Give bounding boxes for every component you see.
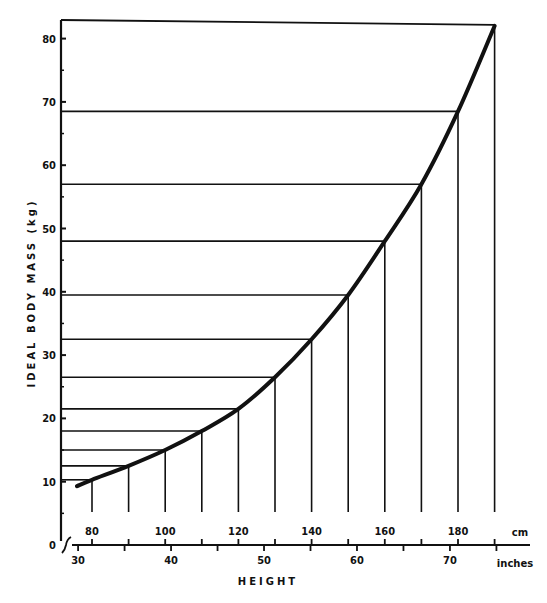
x-cm-tick-label: 120 bbox=[228, 525, 249, 538]
x-inch-tick-label: 50 bbox=[257, 554, 271, 567]
y-tick-label: 10 bbox=[42, 476, 56, 489]
x-inch-tick-label: 30 bbox=[71, 554, 85, 567]
y-axis: 01020304050607080 bbox=[42, 33, 66, 552]
ideal-body-mass-chart: 01020304050607080 8010012014016018030405… bbox=[0, 0, 547, 603]
y-tick-label: 40 bbox=[42, 286, 56, 299]
x-inch-tick-label: 70 bbox=[443, 554, 457, 567]
x-cm-tick-label: 100 bbox=[155, 525, 176, 538]
axis-break-icon bbox=[62, 537, 71, 553]
x-cm-tick-label: 180 bbox=[448, 525, 469, 538]
y-tick-label: 60 bbox=[42, 159, 56, 172]
y-tick-label: 70 bbox=[42, 96, 56, 109]
x-inch-tick-label: 40 bbox=[164, 554, 178, 567]
y-tick-label: 30 bbox=[42, 349, 56, 362]
x-axis: 801001201401601803040506070 bbox=[62, 525, 530, 567]
y-tick-label: 50 bbox=[42, 223, 56, 236]
y-tick-label: 0 bbox=[49, 539, 56, 552]
x-cm-tick-label: 160 bbox=[374, 525, 395, 538]
inches-unit-label: inches bbox=[497, 558, 533, 569]
x-inch-tick-label: 60 bbox=[350, 554, 364, 567]
cm-unit-label: cm bbox=[512, 527, 528, 538]
plot-frame bbox=[61, 20, 495, 541]
ideal-body-mass-curve bbox=[77, 26, 495, 486]
y-axis-title: IDEAL BODY MASS (kg) bbox=[26, 199, 37, 388]
x-cm-tick-label: 80 bbox=[85, 525, 99, 538]
x-axis-title: HEIGHT bbox=[238, 576, 298, 587]
x-cm-tick-label: 140 bbox=[301, 525, 322, 538]
y-tick-label: 80 bbox=[42, 33, 56, 46]
y-tick-label: 20 bbox=[42, 412, 56, 425]
top-border-line bbox=[61, 20, 495, 25]
data-curve bbox=[77, 26, 495, 486]
drop-lines bbox=[61, 26, 495, 512]
